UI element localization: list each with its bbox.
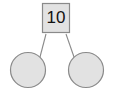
left-child-circle-shape <box>11 53 46 88</box>
node-right-child[interactable] <box>69 53 104 88</box>
node-root[interactable]: 10 <box>43 4 70 33</box>
edge-root-to-right-child <box>66 34 74 57</box>
node-left-child[interactable] <box>11 53 46 88</box>
right-child-circle-shape <box>69 53 104 88</box>
tree-diagram: 10 <box>0 0 114 96</box>
tree-diagram-canvas: 10 <box>0 0 114 96</box>
tree-edges <box>40 34 74 57</box>
root-label: 10 <box>47 8 66 27</box>
edge-root-to-left-child <box>40 34 46 57</box>
